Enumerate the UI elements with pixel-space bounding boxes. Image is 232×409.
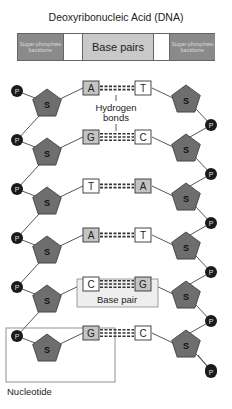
base-left-G: G bbox=[83, 326, 99, 340]
phosphate-right: P bbox=[205, 266, 217, 278]
base-letter: C bbox=[139, 132, 146, 143]
sugar-symbol: S bbox=[183, 341, 189, 351]
base-left-G: G bbox=[83, 130, 99, 144]
base-right-G: G bbox=[135, 277, 151, 291]
sugar-left: S bbox=[33, 89, 62, 116]
base-letter: A bbox=[88, 83, 95, 94]
sugar-right: S bbox=[172, 330, 201, 357]
base-pair-label: Base pair bbox=[97, 294, 137, 305]
sugar-symbol: S bbox=[183, 292, 189, 302]
phosphate-right: P bbox=[205, 119, 217, 131]
hydrogen-bond-lines bbox=[100, 184, 134, 187]
phosphate-symbol: P bbox=[15, 137, 20, 144]
base-pair-rows: ATSSPPGCSSPPTASSPPATSSPPCGSSPPGCSSPPP bbox=[11, 81, 217, 378]
base-right-C: C bbox=[135, 130, 151, 144]
sugar-base-link-right bbox=[152, 186, 173, 196]
phosphate-left: P bbox=[11, 232, 23, 244]
sugar-right: S bbox=[172, 183, 201, 210]
sugar-symbol: S bbox=[183, 243, 189, 253]
sugar-symbol: S bbox=[183, 96, 189, 106]
sugar-base-link-left bbox=[60, 88, 83, 99]
base-right-T: T bbox=[135, 81, 151, 95]
base-letter: T bbox=[140, 230, 146, 241]
phosphate-symbol: P bbox=[209, 171, 214, 178]
sugar-base-link-left bbox=[60, 186, 83, 197]
phosphate-symbol: P bbox=[15, 284, 20, 291]
backbone-lines bbox=[17, 88, 211, 371]
phosphate-right: P bbox=[205, 315, 217, 327]
sugar-base-link-left bbox=[60, 137, 83, 148]
phosphate-symbol: P bbox=[209, 269, 214, 276]
phosphate-symbol: P bbox=[15, 186, 20, 193]
phosphate-left: P bbox=[11, 281, 23, 293]
phosphate-right: P bbox=[205, 217, 217, 229]
phosphate-symbol: P bbox=[209, 220, 214, 227]
sugar-symbol: S bbox=[44, 149, 50, 159]
phosphate-symbol: P bbox=[209, 318, 214, 325]
sugar-left: S bbox=[33, 236, 62, 263]
base-right-T: T bbox=[135, 228, 151, 242]
hydrogen-bonds-label-line2: bonds bbox=[103, 112, 129, 123]
base-right-A: A bbox=[135, 179, 151, 193]
base-left-C: C bbox=[83, 277, 99, 291]
phosphate-symbol: P bbox=[15, 88, 20, 95]
base-letter: G bbox=[87, 132, 95, 143]
sugar-right: S bbox=[172, 85, 201, 112]
base-letter: A bbox=[140, 181, 147, 192]
sugar-left: S bbox=[33, 187, 62, 214]
phosphate-symbol: P bbox=[209, 122, 214, 129]
phosphate-symbol: P bbox=[209, 369, 214, 376]
dna-ladder-diagram: Hydrogen bonds Base pair Nucleotide ATSS… bbox=[0, 0, 232, 409]
sugar-base-link-left bbox=[60, 235, 83, 246]
base-letter: C bbox=[87, 279, 94, 290]
base-letter: G bbox=[139, 279, 147, 290]
sugar-symbol: S bbox=[44, 100, 50, 110]
phosphate-right: P bbox=[205, 366, 217, 378]
sugar-right: S bbox=[172, 134, 201, 161]
sugar-left: S bbox=[33, 334, 62, 361]
sugar-symbol: S bbox=[183, 145, 189, 155]
sugar-base-link-left bbox=[60, 333, 83, 344]
phosphate-left: P bbox=[11, 183, 23, 195]
hydrogen-bond-lines bbox=[100, 134, 134, 140]
base-letter: G bbox=[87, 328, 95, 339]
sugar-symbol: S bbox=[183, 194, 189, 204]
sugar-symbol: S bbox=[44, 296, 50, 306]
sugar-base-link-right bbox=[152, 88, 173, 98]
base-left-T: T bbox=[83, 179, 99, 193]
sugar-left: S bbox=[33, 138, 62, 165]
base-letter: T bbox=[140, 83, 146, 94]
phosphate-left: P bbox=[11, 85, 23, 97]
sugar-base-link-right bbox=[152, 333, 173, 343]
sugar-base-link-right bbox=[152, 137, 173, 147]
base-letter: A bbox=[88, 230, 95, 241]
hydrogen-bond-lines bbox=[100, 86, 134, 89]
sugar-base-link-right bbox=[152, 235, 173, 245]
base-left-A: A bbox=[83, 228, 99, 242]
sugar-left: S bbox=[33, 285, 62, 312]
sugar-symbol: S bbox=[44, 345, 50, 355]
hydrogen-bond-lines bbox=[100, 330, 134, 336]
sugar-right: S bbox=[172, 232, 201, 259]
sugar-symbol: S bbox=[44, 198, 50, 208]
phosphate-symbol: P bbox=[15, 333, 20, 340]
hydrogen-bond-lines bbox=[100, 233, 134, 236]
sugar-right: S bbox=[172, 281, 201, 308]
base-letter: T bbox=[88, 181, 94, 192]
phosphate-left: P bbox=[11, 330, 23, 342]
hydrogen-bonds-annotation: Hydrogen bonds bbox=[95, 95, 136, 131]
base-right-C: C bbox=[135, 326, 151, 340]
base-left-A: A bbox=[83, 81, 99, 95]
base-letter: C bbox=[139, 328, 146, 339]
phosphate-symbol: P bbox=[15, 235, 20, 242]
phosphate-left: P bbox=[11, 134, 23, 146]
nucleotide-label: Nucleotide bbox=[7, 386, 52, 397]
sugar-symbol: S bbox=[44, 247, 50, 257]
phosphate-right: P bbox=[205, 168, 217, 180]
